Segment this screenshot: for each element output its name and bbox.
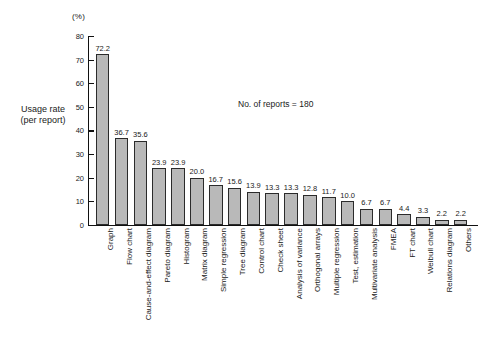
bar-series: 72.236.735.623.923.920.016.715.613.913.3… (88, 36, 478, 225)
bar-slot: 6.7 (379, 36, 393, 225)
x-axis-category-labels: GraphFlow chartCause-and-effect diagramP… (88, 228, 478, 348)
bar[interactable] (360, 209, 374, 225)
bar-slot: 16.7 (209, 36, 223, 225)
y-axis-tick-label: 80 (60, 32, 84, 41)
bar-slot: 72.2 (96, 36, 110, 225)
bar[interactable] (265, 193, 279, 224)
x-axis-category-label: Flow chart (125, 228, 134, 265)
bar-value-label: 12.8 (303, 184, 318, 193)
x-axis-category-label: Cause-and-effect diagram (144, 228, 153, 320)
bar[interactable] (303, 195, 317, 225)
x-axis-category-label: Analysis of variance (295, 228, 304, 299)
bar-value-label: 3.3 (418, 206, 428, 215)
bar-slot: 2.2 (454, 36, 468, 225)
bar-value-label: 23.9 (171, 158, 186, 167)
bar[interactable] (134, 141, 148, 225)
bar[interactable] (435, 220, 449, 225)
y-axis-tick-label: 40 (60, 126, 84, 135)
bar[interactable] (416, 217, 430, 225)
bar[interactable] (115, 138, 129, 225)
x-axis-category-label: Matrix diagram (200, 228, 209, 281)
bar-value-label: 35.6 (133, 130, 148, 139)
bar-value-label: 10.0 (340, 191, 355, 200)
bar-slot: 23.9 (152, 36, 166, 225)
bar-slot: 12.8 (303, 36, 317, 225)
x-axis-category-label: Weibull chart (426, 228, 435, 274)
bar-value-label: 13.3 (284, 183, 299, 192)
bar[interactable] (247, 192, 261, 225)
bar-slot: 6.7 (360, 36, 374, 225)
x-axis-category-label: Test, estimation (351, 228, 360, 284)
x-axis-category-label: Simple regression (219, 228, 228, 292)
plot-area: 01020304050607080 72.236.735.623.923.920… (88, 36, 478, 226)
y-axis-unit-label: (%) (72, 12, 85, 21)
y-axis-tick-label: 10 (60, 197, 84, 206)
bar-value-label: 36.7 (114, 128, 129, 137)
x-axis-category-label: FMEA (389, 228, 398, 250)
bar[interactable] (284, 193, 298, 224)
x-axis-line (88, 225, 478, 226)
bar[interactable] (171, 168, 185, 224)
bar[interactable] (209, 185, 223, 224)
bar-value-label: 23.9 (152, 158, 167, 167)
bar-slot: 2.2 (435, 36, 449, 225)
bar[interactable] (322, 197, 336, 225)
x-axis-category-label: Multivariate analysis (370, 228, 379, 300)
x-axis-category-label: FT chart (408, 228, 417, 258)
x-axis-category-label: Relations diagram (445, 228, 454, 292)
bar-slot: 13.9 (247, 36, 261, 225)
y-axis-tick-label: 60 (60, 79, 84, 88)
bar-value-label: 72.2 (95, 44, 110, 53)
bar-slot: 36.7 (115, 36, 129, 225)
x-axis-category-label: Graph (106, 228, 115, 250)
bar-slot: 13.3 (284, 36, 298, 225)
y-axis-tick-label: 20 (60, 174, 84, 183)
bar-slot: 10.0 (341, 36, 355, 225)
bar-value-label: 2.2 (455, 209, 465, 218)
bar-value-label: 6.7 (361, 198, 371, 207)
bar-slot: 4.4 (397, 36, 411, 225)
bar-slot: 15.6 (228, 36, 242, 225)
bar-value-label: 13.9 (246, 181, 261, 190)
bar-value-label: 13.3 (265, 183, 280, 192)
x-axis-category-label: Histogram (182, 228, 191, 264)
y-axis-tick-label: 0 (60, 221, 84, 230)
bar-slot: 35.6 (134, 36, 148, 225)
y-axis-tick (88, 225, 94, 226)
x-axis-category-label: Orthogonal arrays (313, 228, 322, 292)
bar-value-label: 4.4 (399, 204, 409, 213)
bar-value-label: 16.7 (208, 175, 223, 184)
x-axis-category-label: Multiple regression (332, 228, 341, 295)
x-axis-category-label: Control chart (257, 228, 266, 274)
bar[interactable] (379, 209, 393, 225)
y-axis-tick-label: 70 (60, 56, 84, 65)
bar-value-label: 20.0 (190, 167, 205, 176)
bar[interactable] (96, 54, 110, 224)
bar-value-label: 2.2 (437, 209, 447, 218)
bar-slot: 3.3 (416, 36, 430, 225)
bar-slot: 11.7 (322, 36, 336, 225)
bar-value-label: 15.6 (227, 177, 242, 186)
y-axis-tick-label: 50 (60, 103, 84, 112)
bar-slot: 13.3 (265, 36, 279, 225)
bar[interactable] (152, 168, 166, 224)
usage-rate-bar-chart: (%) Usage rate (per report) No. of repor… (0, 0, 491, 352)
bar[interactable] (341, 201, 355, 225)
bar[interactable] (454, 220, 468, 225)
bar[interactable] (228, 188, 242, 225)
y-axis-tick-label: 30 (60, 150, 84, 159)
x-axis-category-label: Others (464, 228, 473, 252)
x-axis-category-label: Pareto diagram (163, 228, 172, 283)
bar-slot: 23.9 (171, 36, 185, 225)
bar-value-label: 11.7 (322, 187, 336, 196)
x-axis-category-label: Tree diagram (238, 228, 247, 275)
y-axis-tick-labels: 01020304050607080 (58, 36, 84, 226)
bar[interactable] (190, 178, 204, 225)
bar[interactable] (397, 214, 411, 224)
x-axis-category-label: Check sheet (276, 228, 285, 272)
bar-slot: 20.0 (190, 36, 204, 225)
bar-value-label: 6.7 (380, 198, 390, 207)
